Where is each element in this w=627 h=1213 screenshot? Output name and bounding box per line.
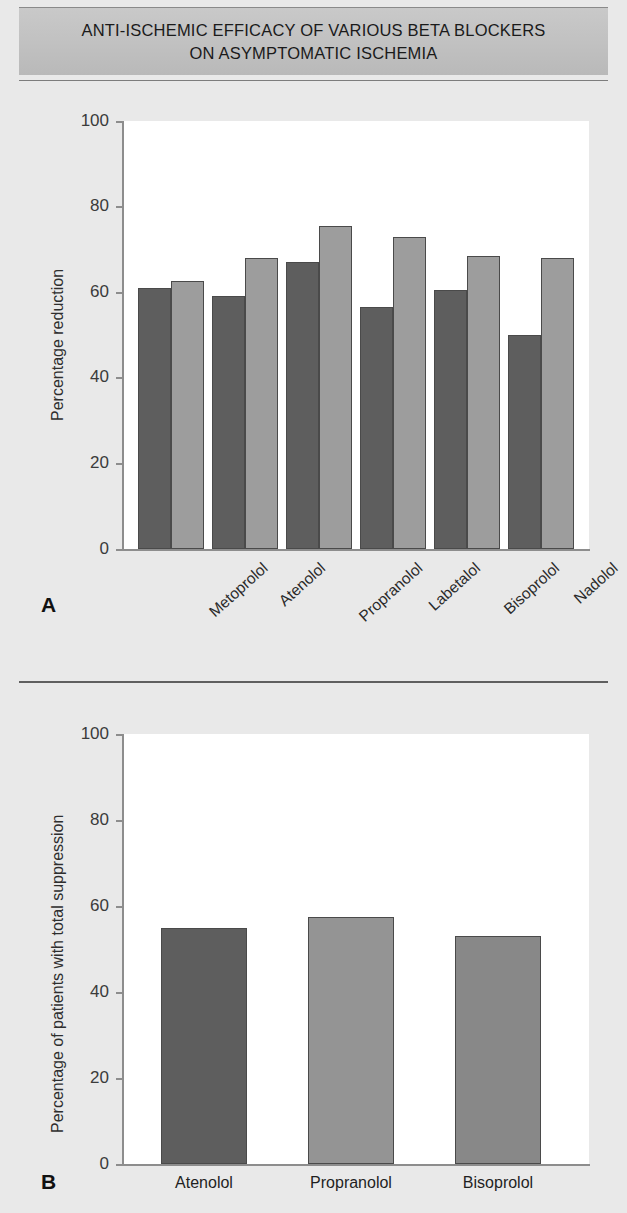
panel-b-xtick-label-atenolol: Atenolol <box>134 1174 274 1192</box>
bar-b-bisoprolol <box>455 936 541 1164</box>
panel-b-xtick-label-bisoprolol: Bisoprolol <box>428 1174 568 1192</box>
panel-b: 100 80 60 40 20 0 Percentage of patients… <box>19 681 608 1208</box>
bar-propranolol-duration <box>319 226 352 549</box>
panel-a-letter: A <box>41 593 56 617</box>
bar-nadolol-frequency <box>508 335 541 549</box>
panel-a-ytick-label-0: 0 <box>63 539 109 559</box>
panel-b-ytick-label-100: 100 <box>63 724 109 744</box>
bar-metoprolol-frequency <box>138 288 171 549</box>
panel-a-tick-100 <box>116 121 123 123</box>
panel-b-xtick-label-propranolol: Propranolol <box>281 1174 421 1192</box>
bar-atenolol-duration <box>245 258 278 549</box>
panel-b-tick-60 <box>116 906 123 908</box>
bar-propranolol-frequency <box>286 262 319 549</box>
panel-a-y-axis <box>122 121 124 551</box>
panel-b-y-axis <box>122 734 124 1166</box>
bar-nadolol-duration <box>541 258 574 549</box>
panel-b-ytick-label-60: 60 <box>63 896 109 916</box>
panel-a-tick-40 <box>116 377 123 379</box>
panel-a-xtick-label-atenolol: Atenolol <box>275 559 329 610</box>
figure-title-banner: ANTI-ISCHEMIC EFFICACY OF VARIOUS BETA B… <box>19 7 608 75</box>
panel-a-xtick-label-propranolol: Propranolol <box>355 559 426 625</box>
panel-b-tick-80 <box>116 820 123 822</box>
bar-metoprolol-duration <box>171 281 204 549</box>
panel-a-xtick-label-bisoprolol: Bisoprolol <box>500 559 563 618</box>
bar-labetalol-duration <box>393 237 426 549</box>
panel-a-xtick-label-metoprolol: Metoprolol <box>206 559 272 621</box>
panel-a-ytick-label-20: 20 <box>63 453 109 473</box>
bar-bisoprolol-frequency <box>434 290 467 549</box>
bar-b-atenolol <box>161 928 247 1164</box>
panel-a-x-axis <box>122 549 590 551</box>
figure-title-line1: ANTI-ISCHEMIC EFFICACY OF VARIOUS BETA B… <box>81 21 545 39</box>
panel-a-ytick-label-60: 60 <box>63 282 109 302</box>
panel-a-ytick-label-40: 40 <box>63 367 109 387</box>
panel-b-ytick-label-0: 0 <box>63 1154 109 1174</box>
bar-labetalol-frequency <box>360 307 393 549</box>
panel-b-y-axis-title: Percentage of patients with total suppre… <box>49 815 67 1133</box>
panel-a: 100 80 60 40 20 0 Percentage reduction <box>19 80 608 677</box>
panel-a-tick-60 <box>116 292 123 294</box>
panel-a-xtick-label-labetalol: Labetalol <box>425 559 484 614</box>
panel-a-tick-20 <box>116 463 123 465</box>
figure-root: ANTI-ISCHEMIC EFFICACY OF VARIOUS BETA B… <box>0 0 627 1213</box>
bar-atenolol-frequency <box>212 296 245 549</box>
panel-a-ytick-label-100: 100 <box>63 111 109 131</box>
panel-b-tick-100 <box>116 734 123 736</box>
panel-a-ytick-label-80: 80 <box>63 196 109 216</box>
figure-title: ANTI-ISCHEMIC EFFICACY OF VARIOUS BETA B… <box>73 19 553 64</box>
panel-b-ytick-label-80: 80 <box>63 810 109 830</box>
panel-b-tick-20 <box>116 1078 123 1080</box>
panel-a-tick-0 <box>116 549 123 551</box>
figure-title-line2: ON ASYMPTOMATIC ISCHEMIA <box>189 44 437 62</box>
panel-b-x-axis <box>122 1164 590 1166</box>
panel-b-tick-0 <box>116 1164 123 1166</box>
panel-a-xtick-label-nadolol: Nadolol <box>571 559 622 608</box>
panel-a-y-axis-title: Percentage reduction <box>49 269 67 421</box>
bar-bisoprolol-duration <box>467 256 500 549</box>
panel-b-ytick-label-40: 40 <box>63 982 109 1002</box>
panel-b-letter: B <box>41 1170 56 1194</box>
bar-b-propranolol <box>308 917 394 1164</box>
panel-b-tick-40 <box>116 992 123 994</box>
panel-a-tick-80 <box>116 206 123 208</box>
panel-b-ytick-label-20: 20 <box>63 1068 109 1088</box>
